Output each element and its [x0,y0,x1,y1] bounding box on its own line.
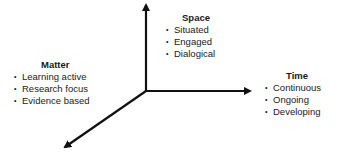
space-list: Situated Engaged Dialogical [166,24,215,60]
time-group: Time Continuous Ongoing Developing [265,70,321,118]
time-title: Time [265,70,321,82]
matter-list: Learning active Research focus Evidence … [14,71,90,107]
list-item: Ongoing [265,94,321,106]
list-item: Engaged [166,36,215,48]
space-title: Space [166,12,215,24]
time-list: Continuous Ongoing Developing [265,82,321,118]
list-item: Developing [265,106,321,118]
list-item: Evidence based [14,95,90,107]
space-group: Space Situated Engaged Dialogical [166,12,215,60]
matter-title: Matter [14,59,90,71]
list-item: Situated [166,24,215,36]
list-item: Learning active [14,71,90,83]
matter-group: Matter Learning active Research focus Ev… [14,59,90,107]
list-item: Dialogical [166,48,215,60]
list-item: Research focus [14,83,90,95]
list-item: Continuous [265,82,321,94]
